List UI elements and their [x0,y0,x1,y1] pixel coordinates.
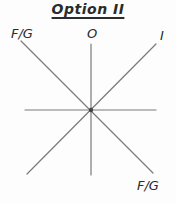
label-fg-top-left: F/G [11,27,33,40]
label-i-top-right: I [160,29,164,42]
label-fg-bottom-right: F/G [137,179,159,192]
center-dot [89,108,93,112]
diagram-canvas: Option II F/G O I F/G [0,0,176,204]
label-o-top: O [87,27,97,40]
fg-axis-diagonal-line [21,41,153,173]
